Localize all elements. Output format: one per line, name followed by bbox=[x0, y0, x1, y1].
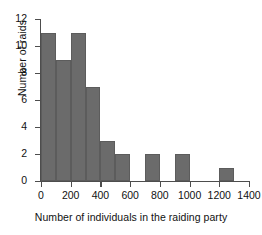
y-tick: 2 bbox=[35, 154, 40, 155]
plot-area: 024681012 0200400600800100012001400 bbox=[41, 19, 249, 181]
x-tick bbox=[190, 182, 191, 187]
histogram-bar bbox=[115, 154, 130, 181]
histogram-bar bbox=[175, 154, 190, 181]
histogram-bar bbox=[100, 141, 115, 182]
x-tick-label: 800 bbox=[151, 189, 169, 202]
y-tick-label: 4 bbox=[21, 120, 27, 133]
x-axis-title: Number of individuals in the raiding par… bbox=[0, 211, 262, 223]
x-tick bbox=[249, 182, 250, 187]
x-tick-label: 200 bbox=[62, 189, 80, 202]
y-tick: 10 bbox=[35, 46, 40, 47]
histogram-bar bbox=[219, 168, 234, 182]
x-tick-label: 1000 bbox=[178, 189, 201, 202]
histogram-bar bbox=[71, 33, 86, 182]
x-tick-label: 400 bbox=[92, 189, 110, 202]
y-tick-label: 12 bbox=[15, 12, 27, 25]
histogram-figure: Number of raids Number of individuals in… bbox=[0, 0, 262, 235]
x-tick bbox=[100, 182, 101, 187]
y-tick: 8 bbox=[35, 73, 40, 74]
x-tick bbox=[71, 182, 72, 187]
y-tick-label: 2 bbox=[21, 147, 27, 160]
y-tick-label: 10 bbox=[15, 39, 27, 52]
x-tick-label: 600 bbox=[121, 189, 139, 202]
x-tick bbox=[160, 182, 161, 187]
x-tick-label: 0 bbox=[38, 189, 44, 202]
histogram-bar bbox=[145, 154, 160, 181]
x-tick bbox=[219, 182, 220, 187]
y-tick-label: 0 bbox=[21, 174, 27, 187]
y-tick: 4 bbox=[35, 127, 40, 128]
y-tick-label: 6 bbox=[21, 93, 27, 106]
y-tick: 0 bbox=[35, 181, 40, 182]
histogram-bar bbox=[41, 33, 56, 182]
y-tick: 6 bbox=[35, 100, 40, 101]
y-tick-label: 8 bbox=[21, 66, 27, 79]
x-tick-label: 1200 bbox=[208, 189, 231, 202]
histogram-bar bbox=[56, 60, 71, 182]
x-tick bbox=[130, 182, 131, 187]
y-tick: 12 bbox=[35, 19, 40, 20]
histogram-bar bbox=[86, 87, 101, 182]
x-tick-label: 1400 bbox=[237, 189, 260, 202]
x-tick bbox=[41, 182, 42, 187]
